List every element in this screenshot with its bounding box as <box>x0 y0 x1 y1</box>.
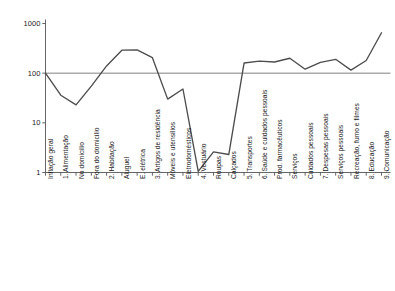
chart-plot-area <box>0 0 395 291</box>
inflation-log-line-chart: 1000100101 Inflação geral1. AlimentaçãoN… <box>0 0 395 291</box>
y-axis-tick-label: 1 <box>7 168 41 177</box>
chart-data-series <box>46 33 382 172</box>
y-axis-tick-label: 10 <box>7 118 41 127</box>
chart-x-tick-marks <box>46 173 382 176</box>
y-axis-tick-label: 100 <box>7 69 41 78</box>
chart-y-tick-marks <box>42 24 45 173</box>
chart-axes <box>46 20 391 173</box>
y-axis-tick-label: 1000 <box>7 19 41 28</box>
